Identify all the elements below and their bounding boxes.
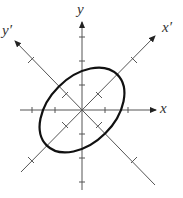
axes-and-ellipse: [0, 0, 183, 198]
diagram: y x x′ y′: [0, 0, 183, 198]
x-prime-axis-label: x′: [162, 20, 172, 35]
y-prime-axis-label: y′: [2, 23, 12, 38]
y-axis-label: y: [77, 2, 84, 17]
y-prime-axis: [15, 41, 155, 185]
x-axis-label: x: [160, 101, 167, 116]
x-prime-axis: [21, 36, 155, 172]
